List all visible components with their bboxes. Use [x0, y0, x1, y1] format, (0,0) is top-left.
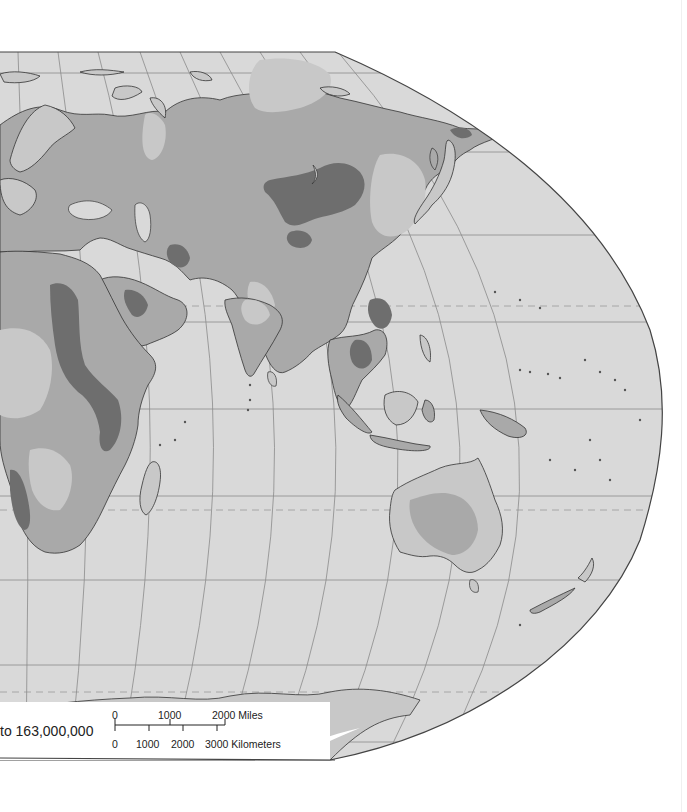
km-tick-2000: 2000: [171, 738, 195, 750]
miles-tick-0: 0: [112, 709, 118, 721]
page-gutter: [681, 0, 682, 812]
world-map: to 163,000,000 0 1000 2000 Miles 0 1000 …: [0, 0, 687, 812]
miles-tick-1000: 1000: [158, 709, 182, 721]
km-tick-3000: 3000 Kilometers: [205, 738, 281, 750]
scale-ratio: to 163,000,000: [0, 723, 94, 739]
miles-tick-2000: 2000 Miles: [212, 709, 263, 721]
km-tick-1000: 1000: [136, 738, 160, 750]
km-tick-0: 0: [112, 738, 118, 750]
